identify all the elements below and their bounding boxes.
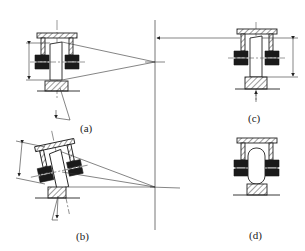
panel-a: (a) (26, 20, 155, 135)
panel-b (22, 125, 98, 221)
panel-d: (d) (233, 138, 280, 242)
diagram-canvas: (a) (b) (0, 0, 305, 251)
panel-b-base: (b) (16, 141, 155, 243)
diagram-svg: (a) (b) (0, 0, 305, 251)
panel-b-label: (b) (76, 230, 89, 243)
reference-vertical-line (145, 20, 240, 230)
panel-c: (c) (228, 22, 298, 125)
panel-a-label: (a) (80, 122, 93, 135)
panel-d-label: (d) (249, 229, 262, 242)
panel-c-label: (c) (248, 112, 261, 125)
